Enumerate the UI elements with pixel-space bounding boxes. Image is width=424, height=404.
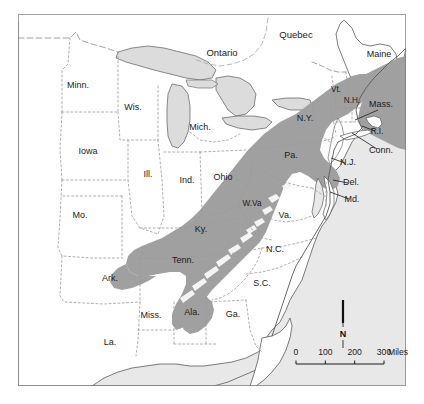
- label-massachusetts: Mass.: [369, 99, 393, 109]
- label-quebec: Quebec: [279, 29, 313, 40]
- label-ohio: Ohio: [213, 172, 232, 182]
- label-maine: Maine: [367, 49, 392, 59]
- label-alabama: Ala.: [184, 307, 200, 317]
- label-indiana: Ind.: [179, 175, 194, 185]
- label-tennessee: Tenn.: [172, 255, 194, 265]
- label-georgia: Ga.: [226, 309, 241, 319]
- label-connecticut: Conn.: [369, 145, 393, 155]
- label-wisconsin: Wis.: [124, 102, 142, 112]
- label-virginia: Va.: [279, 210, 292, 220]
- label-minnesota: Minn.: [67, 80, 89, 90]
- scale-bar-label-0: 0: [294, 347, 299, 357]
- scale-bar-label-200: 200: [347, 347, 362, 357]
- compass-north-label: N: [340, 329, 347, 339]
- label-newyork: N.Y.: [297, 113, 313, 123]
- label-illinois: Ill.: [144, 169, 153, 179]
- scale-bar-label-100: 100: [318, 347, 333, 357]
- label-delaware: Del.: [343, 177, 359, 187]
- label-michigan: Mich.: [189, 122, 211, 132]
- label-southcarolina: S.C.: [253, 278, 271, 288]
- label-rhodeisland: R.I.: [371, 127, 384, 136]
- label-arkansas: Ark.: [102, 273, 118, 283]
- label-westvirginia: W.Va: [243, 199, 262, 208]
- label-kentucky: Ky.: [195, 224, 207, 234]
- label-maryland: Md.: [344, 194, 359, 204]
- label-newhampshire: N.H.: [344, 96, 360, 105]
- label-mississippi: Miss.: [141, 310, 162, 320]
- label-vermont: Vt.: [331, 85, 341, 94]
- michigan-upper-peninsula-water: [186, 80, 218, 88]
- label-ontario: Ontario: [206, 47, 237, 58]
- label-louisiana: La.: [104, 337, 117, 347]
- scale-bar-unit-label: Miles: [388, 347, 408, 357]
- label-northcarolina: N.C.: [266, 244, 284, 254]
- map-container: Minn.Wis.Mich.IowaIll.Ind.OhioMo.Ky.W.Va…: [0, 0, 424, 404]
- label-missouri: Mo.: [72, 210, 87, 220]
- label-iowa: Iowa: [78, 146, 97, 156]
- label-pennsylvania: Pa.: [284, 150, 298, 160]
- label-newjersey: N.J.: [340, 157, 356, 167]
- reference-map: Minn.Wis.Mich.IowaIll.Ind.OhioMo.Ky.W.Va…: [0, 0, 424, 404]
